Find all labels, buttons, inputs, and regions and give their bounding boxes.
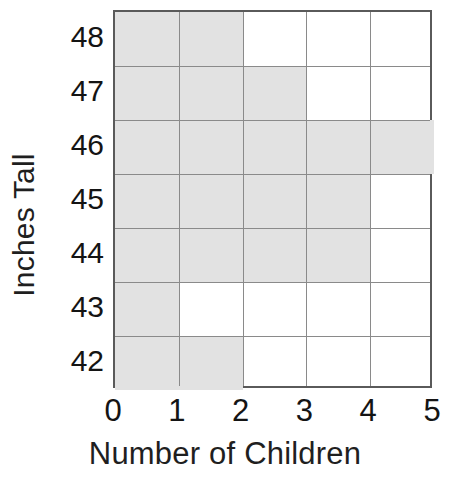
y-axis-title: Inches Tall xyxy=(0,60,48,390)
y-axis-tick-label: 47 xyxy=(71,64,104,118)
gridline-vertical xyxy=(306,12,307,386)
x-axis-tick-label: 3 xyxy=(284,392,324,430)
x-axis-title-label: Number of Children xyxy=(89,436,361,471)
gridline-vertical xyxy=(179,12,180,386)
y-axis-tick-label: 42 xyxy=(71,334,104,388)
x-axis-tick-label: 4 xyxy=(348,392,388,430)
y-axis-tick-label: 46 xyxy=(71,118,104,172)
x-axis-title: Number of Children xyxy=(0,436,450,472)
y-axis-tick-label: 45 xyxy=(71,172,104,226)
bar-chart: Inches Tall 48474645444342 012345 Number… xyxy=(0,0,450,484)
y-axis-tick-labels: 48474645444342 xyxy=(50,10,108,388)
x-axis-tick-label: 5 xyxy=(412,392,450,430)
y-axis-tick-label: 48 xyxy=(71,10,104,64)
x-axis-tick-label: 2 xyxy=(221,392,261,430)
y-axis-tick-label: 44 xyxy=(71,226,104,280)
x-axis-tick-labels: 012345 xyxy=(113,392,432,432)
vertical-gridlines xyxy=(115,12,430,386)
x-axis-tick-label: 1 xyxy=(157,392,197,430)
y-axis-tick-label: 43 xyxy=(71,280,104,334)
gridline-vertical xyxy=(370,12,371,386)
gridline-vertical xyxy=(243,12,244,386)
x-axis-tick-label: 0 xyxy=(93,392,133,430)
y-axis-title-label: Inches Tall xyxy=(7,153,41,296)
plot-area xyxy=(113,10,432,388)
